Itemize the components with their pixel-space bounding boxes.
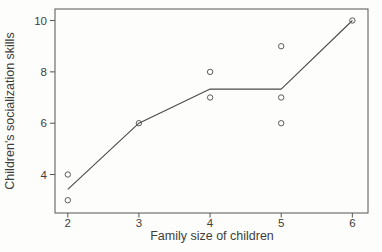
- y-tick-label: 4: [41, 169, 48, 181]
- y-axis-title: Children's socialization skills: [3, 32, 17, 189]
- data-points-group: [65, 18, 355, 203]
- x-tick-label: 5: [278, 217, 284, 229]
- data-point: [207, 69, 212, 74]
- plot-frame: [55, 9, 368, 213]
- x-tick-label: 4: [207, 217, 214, 229]
- data-point: [279, 95, 284, 100]
- y-tick-label: 8: [41, 66, 47, 78]
- scatter-plot-figure: 23456 46810 Family size of children Chil…: [0, 0, 382, 252]
- y-axis-ticks: 46810: [34, 15, 55, 181]
- y-tick-label: 6: [41, 117, 47, 129]
- trend-line-group: [68, 21, 353, 190]
- data-point: [207, 95, 212, 100]
- x-axis-ticks: 23456: [65, 213, 356, 229]
- trend-line: [68, 21, 353, 190]
- x-axis-title: Family size of children: [150, 229, 274, 243]
- chart-canvas: 23456 46810 Family size of children Chil…: [0, 0, 382, 252]
- data-point: [65, 198, 70, 203]
- data-point: [279, 44, 284, 49]
- y-tick-label: 10: [34, 15, 47, 27]
- x-tick-label: 6: [349, 217, 355, 229]
- data-point: [279, 121, 284, 126]
- data-point: [65, 172, 70, 177]
- x-tick-label: 3: [136, 217, 142, 229]
- x-tick-label: 2: [65, 217, 71, 229]
- plot-area-border: [55, 9, 368, 213]
